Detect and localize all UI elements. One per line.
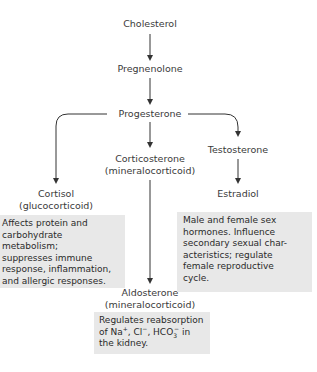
desc-line: hormones. Influence: [183, 227, 307, 239]
cortisol-label: Cortisol: [10, 188, 102, 200]
estradiol-description-box: Male and female sex hormones. Influence …: [177, 212, 312, 292]
desc-line: and allergic responses.: [2, 276, 120, 288]
cortisol-description-box: Affects protein and carbohydrate metabol…: [0, 215, 125, 288]
desc-line: cycle.: [183, 273, 307, 285]
ion-text: , Cl: [128, 327, 143, 337]
node-progesterone: Progesterone: [108, 108, 192, 120]
desc-line: acteristics; regulate: [183, 250, 307, 262]
node-testosterone: Testosterone: [200, 144, 276, 156]
ion-text: , HCO: [147, 327, 173, 337]
desc-line: Regulates reabsorption: [99, 315, 205, 327]
node-cholesterol: Cholesterol: [110, 18, 190, 30]
desc-line: Male and female sex: [183, 215, 307, 227]
arrow-progesterone-testosterone: [188, 114, 238, 133]
desc-line: response, inflammation,: [2, 264, 120, 276]
desc-line: carbohydrate metabolism;: [2, 230, 120, 253]
node-cortisol: Cortisol (glucocorticoid): [10, 188, 102, 212]
aldosterone-class: (mineralocorticoid): [100, 299, 200, 311]
desc-line: secondary sexual char-: [183, 238, 307, 250]
node-corticosterone: Corticosterone (mineralocorticoid): [100, 153, 200, 177]
desc-line: suppresses immune: [2, 253, 120, 265]
hco-subscript: 3: [173, 331, 177, 338]
ion-text: in: [179, 327, 190, 337]
cortisol-class: (glucocorticoid): [10, 200, 102, 212]
corticosterone-label: Corticosterone: [100, 153, 200, 165]
ion-text: of Na: [99, 327, 123, 337]
desc-line: female reproductive: [183, 261, 307, 273]
desc-line: of Na+, Cl−, HCO3− in: [99, 327, 205, 339]
node-pregnenolone: Pregnenolone: [110, 63, 190, 75]
aldosterone-description-box: Regulates reabsorption of Na+, Cl−, HCO3…: [94, 312, 210, 354]
node-estradiol: Estradiol: [208, 188, 268, 200]
desc-line: the kidney.: [99, 338, 205, 350]
desc-line: Affects protein and: [2, 218, 120, 230]
corticosterone-class: (mineralocorticoid): [100, 165, 200, 177]
